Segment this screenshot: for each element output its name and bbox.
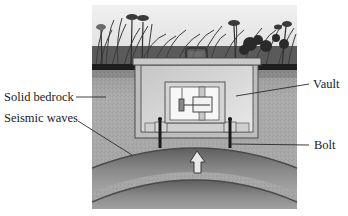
label-bolt: Bolt — [314, 139, 336, 152]
label-vault: Vault — [313, 78, 339, 91]
bolt-right — [229, 118, 232, 148]
pendulum-weight — [179, 99, 184, 111]
vault-lid — [133, 58, 261, 65]
bolt-left — [159, 118, 162, 148]
diagram-scene — [0, 0, 348, 216]
seismometer-instrument — [165, 82, 225, 123]
label-seismic-waves: Seismic waves — [4, 112, 78, 125]
label-solid-bedrock: Solid bedrock — [4, 91, 74, 104]
